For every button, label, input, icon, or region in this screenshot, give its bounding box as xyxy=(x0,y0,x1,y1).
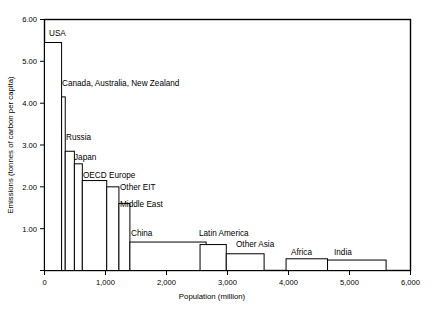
x-tick-label-3000: 3,000 xyxy=(218,278,237,287)
bar-canada-australia-new-zealand xyxy=(62,97,66,271)
bar-latin-america xyxy=(200,245,226,271)
x-tick-label-0: 0 xyxy=(42,278,46,287)
bar-label-usa: USA xyxy=(49,29,66,38)
bar-label-oecd-europe: OECD Europe xyxy=(83,171,136,180)
x-axis-title: Population (million) xyxy=(179,292,246,301)
x-tick-label-6000: 6,000 xyxy=(401,278,420,287)
bar-other-asia xyxy=(226,254,264,271)
bar-label-africa: Africa xyxy=(291,248,312,257)
y-tick-label-6: 6.00 xyxy=(22,15,37,24)
bar-label-russia: Russia xyxy=(66,133,91,142)
x-tick-label-2000: 2,000 xyxy=(157,278,176,287)
y-tick-label-5: 5.00 xyxy=(22,57,37,66)
bar-label-india: India xyxy=(334,248,352,257)
y-tick-label-3: 3.00 xyxy=(22,141,37,150)
emissions-population-chart: 1.00 2.00 3.00 4.00 5.00 6.00 Emissions … xyxy=(0,0,435,317)
bar-label-middle-east: Middle East xyxy=(120,200,164,209)
y-tick-label-1: 1.00 xyxy=(22,225,37,234)
y-axis-title: Emissions (tonnes of carbon per capita) xyxy=(6,76,15,214)
bar-russia xyxy=(65,151,74,270)
bar-label-japan: Japan xyxy=(74,153,97,162)
bar-usa xyxy=(45,43,62,271)
x-tick-label-5000: 5,000 xyxy=(340,278,359,287)
chart-svg: 1.00 2.00 3.00 4.00 5.00 6.00 Emissions … xyxy=(0,0,435,317)
bar-africa xyxy=(286,259,327,271)
y-tick-label-4: 4.00 xyxy=(22,99,37,108)
bar-china xyxy=(130,242,206,270)
bar-other-eit xyxy=(107,187,119,271)
bar-label-latin-america: Latin America xyxy=(199,229,249,238)
bar-label-canada-aus-nz: Canada, Australia, New Zealand xyxy=(62,79,180,88)
bar-japan xyxy=(74,164,82,271)
bar-label-other-asia: Other Asia xyxy=(236,240,275,249)
bar-oecd-europe xyxy=(82,181,106,271)
x-tick-label-4000: 4,000 xyxy=(279,278,298,287)
bar-label-china: China xyxy=(131,229,153,238)
bar-label-other-eit: Other EIT xyxy=(120,183,156,192)
bar-middle-east xyxy=(119,204,130,271)
y-tick-label-2: 2.00 xyxy=(22,183,37,192)
bar-india xyxy=(328,260,387,270)
x-tick-label-1000: 1,000 xyxy=(96,278,115,287)
